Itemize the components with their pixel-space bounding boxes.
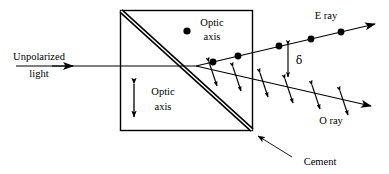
optic-axis-upper-label-line2: axis: [204, 31, 221, 42]
incident-light-label-line2: light: [29, 68, 48, 79]
e-ray-dot: [235, 53, 242, 60]
e-ray-dot: [210, 59, 217, 66]
polarization-double-arrow: [260, 73, 268, 97]
e-ray-dot: [308, 36, 315, 43]
cement-callout-group: Cement: [258, 136, 336, 167]
delta-label: δ: [296, 54, 303, 67]
e-ray-line: [196, 24, 375, 66]
polarization-double-arrow: [312, 85, 320, 109]
optic-axis-dot-icon: [183, 27, 190, 34]
incident-light-label-line1: Unpolarized: [13, 51, 66, 62]
e-ray-label: E ray: [315, 10, 338, 21]
cement-pointer-arrow: [258, 136, 292, 157]
optic-axis-lower-label-line1: Optic: [151, 86, 175, 97]
optic-axis-upper-group: Optic axis: [183, 17, 224, 42]
polarization-double-arrow: [285, 79, 293, 103]
o-ray-label: O ray: [319, 115, 343, 126]
incident-light-label-group: Unpolarized light: [13, 51, 66, 79]
cement-label: Cement: [304, 156, 337, 167]
polarization-double-arrow: [209, 62, 217, 86]
optic-axis-upper-label-line1: Optic: [200, 17, 224, 28]
optic-axis-lower-group: Optic axis: [134, 84, 175, 117]
optics-diagram-figure: δ Optic axis Optic axis Unpolarized ligh…: [0, 0, 389, 174]
polarization-double-arrow: [233, 67, 241, 91]
polarization-double-arrow: [340, 91, 348, 115]
o-ray-group: [196, 62, 371, 115]
e-ray-dot: [276, 43, 283, 50]
e-ray-group: [196, 24, 375, 66]
delta-indicator: δ: [288, 45, 303, 77]
e-ray-dot: [338, 29, 345, 36]
optic-axis-lower-label-line2: axis: [155, 101, 172, 112]
diagram-canvas: δ Optic axis Optic axis Unpolarized ligh…: [0, 0, 389, 174]
